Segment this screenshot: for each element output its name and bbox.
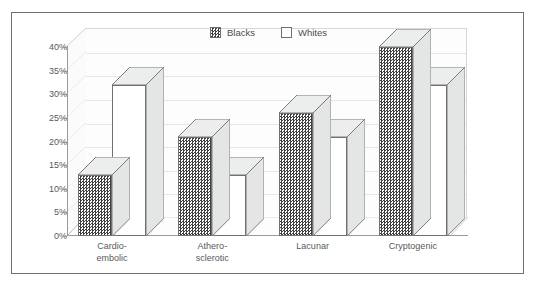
x-axis-category-label: Cryptogenic bbox=[361, 241, 465, 253]
bar-side-face bbox=[146, 67, 164, 236]
bar-top-face bbox=[279, 95, 331, 113]
checkered-swatch-icon bbox=[210, 27, 221, 38]
figure: 40%35%30%25%20%15%10%5%0% Cardio- emboli… bbox=[0, 0, 536, 289]
bar-front-face bbox=[379, 47, 413, 236]
chart-frame: 40%35%30%25%20%15%10%5%0% Cardio- emboli… bbox=[11, 12, 524, 274]
bar-blacks-1 bbox=[78, 157, 112, 236]
legend-label: Blacks bbox=[227, 27, 255, 38]
bar-top-face bbox=[379, 29, 431, 47]
bar-side-face bbox=[447, 67, 465, 236]
bar-blacks-3 bbox=[279, 95, 313, 236]
bar-top-face bbox=[78, 157, 130, 175]
bar-side-face bbox=[413, 29, 431, 236]
legend-item-whites[interactable]: Whites bbox=[281, 27, 327, 38]
bar-top-face bbox=[112, 67, 164, 85]
bars-layer bbox=[12, 13, 525, 275]
bar-blacks-4 bbox=[379, 29, 413, 236]
plot-area: 40%35%30%25%20%15%10%5%0% Cardio- emboli… bbox=[12, 13, 525, 275]
legend-item-blacks[interactable]: Blacks bbox=[210, 27, 255, 38]
x-axis-category-label: Athero- sclerotic bbox=[160, 241, 264, 264]
bar-blacks-2 bbox=[178, 119, 212, 236]
bar-front-face bbox=[178, 137, 212, 236]
legend-label: Whites bbox=[298, 27, 327, 38]
x-axis-category-label: Lacunar bbox=[261, 241, 365, 253]
bar-top-face bbox=[178, 119, 230, 137]
x-axis-category-label: Cardio- embolic bbox=[60, 241, 164, 264]
chart-legend: BlacksWhites bbox=[12, 27, 525, 38]
bar-side-face bbox=[313, 95, 331, 236]
white-swatch-icon bbox=[281, 27, 292, 38]
bar-front-face bbox=[78, 175, 112, 236]
bar-front-face bbox=[279, 113, 313, 236]
x-axis-category-labels: Cardio- embolicAthero- scleroticLacunarC… bbox=[12, 241, 525, 275]
